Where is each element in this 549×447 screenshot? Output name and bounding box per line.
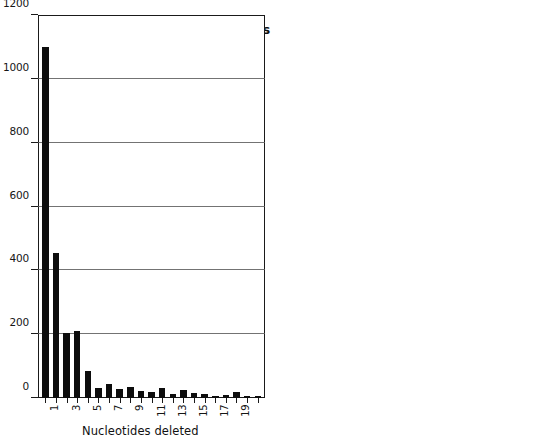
- bar: [159, 388, 166, 398]
- bar-series-deletions: [38, 15, 265, 398]
- y-axis-tick-label: 600: [10, 189, 29, 201]
- x-axis-tick: [88, 398, 89, 403]
- y-axis-tick-label: 800: [10, 125, 29, 137]
- y-axis-tick: [31, 78, 38, 79]
- x-axis-tick-label: 1: [49, 405, 60, 411]
- x-axis-title-deletions: Nucleotides deleted: [82, 424, 199, 438]
- x-axis-tick: [120, 398, 121, 403]
- x-axis-tick-label: 19: [240, 405, 251, 417]
- bar-slot: [242, 15, 253, 398]
- bar: [85, 371, 92, 398]
- x-axis-tick-label: 11: [156, 405, 167, 417]
- x-axis-tick: [226, 398, 227, 403]
- x-axis-tick-label: 15: [198, 405, 209, 417]
- bar-slot: [189, 15, 200, 398]
- bar: [63, 333, 70, 398]
- bar-slot: [231, 15, 242, 398]
- plot-area-deletions: 020040060080010001200 135791113151719: [38, 15, 265, 398]
- x-axis-tick: [141, 398, 142, 403]
- bar-slot: [40, 15, 51, 398]
- x-axis-tick: [56, 398, 57, 403]
- x-axis-tick: [194, 398, 195, 403]
- bar-slot: [157, 15, 168, 398]
- bar: [53, 253, 60, 398]
- bar-slot: [136, 15, 147, 398]
- x-axis-tick-label: 9: [134, 405, 145, 411]
- y-axis-tick-label: 0: [23, 380, 29, 392]
- x-axis-tick: [173, 398, 174, 403]
- x-axis-tick: [152, 398, 153, 403]
- x-axis-tick-label: 17: [219, 405, 230, 417]
- bar: [95, 388, 102, 398]
- y-axis-tick: [31, 333, 38, 334]
- x-axis-tick: [98, 398, 99, 403]
- y-axis-tick: [31, 206, 38, 207]
- bar: [138, 391, 145, 398]
- x-axis-tick: [236, 398, 237, 403]
- chart-panel-deletions: 2368 small deletions 0200400600800100012…: [0, 0, 275, 447]
- x-axis-tick-label: 3: [71, 405, 82, 411]
- x-axis-tick: [77, 398, 78, 403]
- y-axis-tick-label: 1200: [3, 0, 29, 9]
- y-axis-tick: [31, 14, 38, 15]
- bar: [127, 387, 134, 398]
- bar-slot: [114, 15, 125, 398]
- x-axis-tick: [162, 398, 163, 403]
- x-axis-tick: [130, 398, 131, 403]
- x-axis-tick-label: 7: [113, 405, 124, 411]
- bar-slot: [72, 15, 83, 398]
- bar: [116, 389, 123, 398]
- x-axis-tick-label: 5: [92, 405, 103, 411]
- x-axis-tick: [67, 398, 68, 403]
- bar: [106, 384, 113, 398]
- x-axis-tick: [109, 398, 110, 403]
- y-axis-tick-label: 400: [10, 252, 29, 264]
- y-axis-tick-label: 200: [10, 316, 29, 328]
- x-axis-tick: [183, 398, 184, 403]
- bar-slot: [93, 15, 104, 398]
- x-axis-tick: [45, 398, 46, 403]
- bar-slot: [168, 15, 179, 398]
- y-axis-tick: [31, 269, 38, 270]
- bar-slot: [221, 15, 232, 398]
- x-axis-tick-label: 13: [177, 405, 188, 417]
- bar: [74, 331, 81, 398]
- bar-slot: [178, 15, 189, 398]
- bar-slot: [104, 15, 115, 398]
- bar-slot: [210, 15, 221, 398]
- bar-slot: [146, 15, 157, 398]
- bar-slot: [51, 15, 62, 398]
- y-axis-tick-label: 1000: [3, 61, 29, 73]
- bar-slot: [125, 15, 136, 398]
- figure-canvas: 2368 small deletions 0200400600800100012…: [0, 0, 549, 447]
- y-axis-tick: [31, 142, 38, 143]
- x-axis-tick: [205, 398, 206, 403]
- bar: [42, 47, 49, 398]
- bar-slot: [199, 15, 210, 398]
- bar: [180, 390, 187, 398]
- y-axis-tick: [31, 397, 38, 398]
- bar-slot: [83, 15, 94, 398]
- bar-slot: [61, 15, 72, 398]
- chart-panel-insertions: 849 small insertions 0200400600 13579111…: [275, 0, 549, 447]
- x-axis-tick: [247, 398, 248, 403]
- x-axis-tick: [215, 398, 216, 403]
- bar-slot: [253, 15, 264, 398]
- x-axis-tick: [258, 398, 259, 403]
